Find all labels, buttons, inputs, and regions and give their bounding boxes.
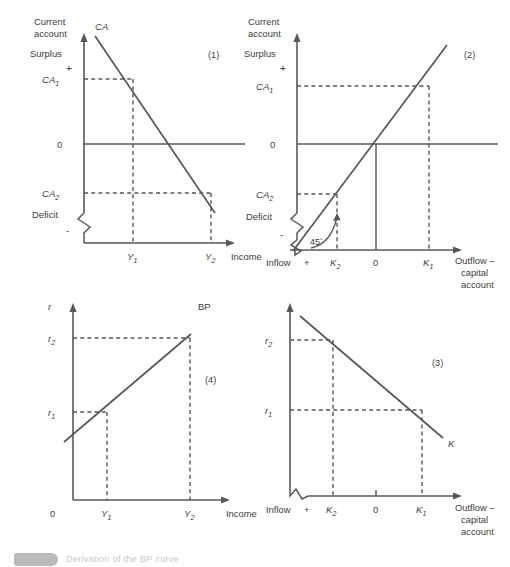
- panel-3-xtick-k2: K2: [326, 504, 336, 517]
- panel-2-inflow-label: Inflow: [266, 257, 291, 268]
- panel-3-x-origin-label: 0: [373, 504, 378, 515]
- panel-4-y-axis-label: r: [48, 301, 52, 312]
- panel-1-deficit-label: Deficit: [32, 209, 58, 220]
- panel-4-number: (4): [205, 375, 216, 385]
- panel-4-y-axis-arrowhead: [69, 303, 76, 312]
- panel-1-curve-label: CA: [95, 21, 108, 32]
- panel-3-x-axis-break: [290, 489, 308, 499]
- caption-number-badge: [14, 553, 58, 566]
- panel-1-number: (1): [208, 50, 219, 60]
- panel-3-ytick-r1: r1: [265, 405, 272, 418]
- panel-3-x-axis-label-line2: capital: [461, 514, 488, 525]
- panel-2-xtick-k2: K2: [330, 257, 340, 270]
- panel-2-zero-label: 0: [270, 139, 275, 150]
- panel-1-y-axis-break: [78, 213, 90, 243]
- figure-container: Current account Surplus + 0 Deficit - CA…: [0, 0, 510, 567]
- panel-3-xtick-k1: K1: [416, 504, 426, 517]
- panel-2-y-title-line2: account: [248, 28, 281, 39]
- bp-curve-derivation-diagram: Current account Surplus + 0 Deficit - CA…: [0, 0, 510, 567]
- figure-caption: Derivation of the BP curve: [66, 554, 179, 564]
- panel-1-minus-sign: -: [66, 225, 69, 236]
- panel-3-inflow-label: Inflow: [266, 504, 291, 515]
- panel-2: 45° Current account Surplus + 0 Deficit …: [244, 16, 498, 290]
- panel-3-x-axis-arrowhead: [453, 492, 462, 499]
- panel-4: r r2 r1 0 Y1 Y2 Income BP (4): [48, 301, 257, 521]
- panel-2-deficit-label: Deficit: [246, 211, 272, 222]
- panel-4-bp-curve: [64, 334, 191, 442]
- panel-2-angle-label: 45°: [310, 237, 323, 248]
- panel-4-xtick-y1: Y1: [101, 508, 111, 521]
- panel-2-y-axis-break: [291, 213, 303, 240]
- panel-1-xtick-y1: Y1: [127, 251, 137, 264]
- panel-2-x-origin-label: 0: [373, 257, 378, 268]
- panel-4-ytick-r1: r1: [48, 407, 55, 420]
- panel-2-ytick-ca2: CA2: [256, 189, 273, 202]
- panel-2-y-axis-arrowhead: [293, 33, 300, 42]
- panel-4-x-axis-arrowhead: [221, 496, 230, 503]
- panel-3-number: (3): [432, 358, 443, 368]
- panel-4-xtick-y2: Y2: [184, 508, 194, 521]
- panel-1-zero-label: 0: [57, 139, 62, 150]
- panel-1-x-axis-arrowhead: [226, 239, 235, 246]
- panel-2-ytick-ca1: CA1: [256, 81, 273, 94]
- panel-1-ca-curve: [95, 36, 215, 213]
- panel-2-minus-sign: -: [280, 229, 283, 240]
- panel-1-x-axis-label: Income: [231, 251, 262, 262]
- panel-1-ytick-ca1: CA1: [42, 74, 59, 87]
- panel-3: r2 r1 Inflow + K2 0 K1 Outflow – capital…: [265, 303, 495, 537]
- panel-4-x-axis-label: Income: [226, 508, 257, 519]
- panel-4-ytick-r2: r2: [48, 333, 55, 346]
- panel-2-surplus-label: Surplus: [244, 48, 276, 59]
- panel-3-x-plus-sign: +: [304, 504, 310, 515]
- panel-2-x-plus-sign: +: [304, 257, 310, 268]
- panel-2-x-axis-label-line1: Outflow –: [455, 255, 495, 266]
- panel-3-curve-label: K: [448, 438, 455, 449]
- panel-2-45-degree-line: [293, 45, 447, 251]
- panel-2-x-axis-label-line2: capital: [461, 267, 488, 278]
- panel-2-xtick-k1: K1: [423, 257, 433, 270]
- panel-3-y-axis-arrowhead: [286, 303, 293, 312]
- panel-2-plus-sign: +: [280, 63, 286, 74]
- panel-3-x-axis-label-line1: Outflow –: [455, 502, 495, 513]
- panel-2-x-axis-label-line3: account: [461, 279, 494, 290]
- panel-1-y-title-line2: account: [34, 28, 67, 39]
- panel-4-origin-label: 0: [50, 508, 55, 519]
- panel-4-curve-label: BP: [198, 301, 211, 312]
- panel-1-xtick-y2: Y2: [205, 251, 215, 264]
- panel-2-x-axis-arrowhead: [453, 246, 462, 253]
- panel-3-x-axis-label-line3: account: [461, 526, 494, 537]
- panel-1-y-axis-arrowhead: [80, 33, 87, 42]
- panel-1-plus-sign: +: [66, 63, 72, 74]
- panel-1-ytick-ca2: CA2: [42, 188, 59, 201]
- panel-2-number: (2): [464, 50, 475, 60]
- panel-1-y-title-line1: Current: [34, 16, 66, 27]
- panel-2-y-title-line1: Current: [248, 16, 280, 27]
- panel-3-ytick-r2: r2: [265, 335, 272, 348]
- panel-1: Current account Surplus + 0 Deficit - CA…: [30, 16, 262, 264]
- panel-1-surplus-label: Surplus: [30, 48, 62, 59]
- panel-2-angle-arrowhead: [333, 213, 340, 221]
